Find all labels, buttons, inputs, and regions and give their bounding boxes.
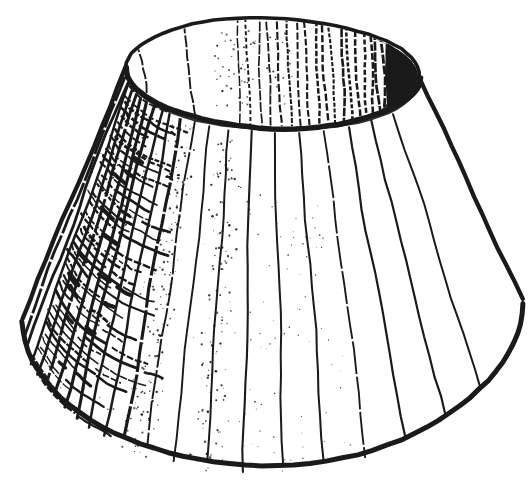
surface-ribs <box>23 77 480 472</box>
lampshade-illustration <box>0 0 532 480</box>
sketch-canvas <box>0 0 532 480</box>
lampshade-drawing <box>0 0 532 480</box>
top-rim <box>125 18 420 130</box>
